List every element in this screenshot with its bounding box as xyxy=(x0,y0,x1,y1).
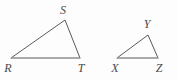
triangle-xyz-group xyxy=(117,35,158,58)
triangle-xyz-edges xyxy=(117,35,158,58)
triangle-rst-group xyxy=(11,20,80,58)
vertex-label-r: R xyxy=(4,62,11,74)
geometry-figure: R S T X Y Z xyxy=(0,0,178,79)
vertex-label-s: S xyxy=(60,4,66,16)
triangle-rst-edges xyxy=(11,20,80,58)
vertex-label-t: T xyxy=(78,62,85,74)
triangles-canvas xyxy=(0,0,178,79)
vertex-label-z: Z xyxy=(156,62,163,74)
vertex-label-y: Y xyxy=(144,18,151,30)
vertex-label-x: X xyxy=(111,62,118,74)
